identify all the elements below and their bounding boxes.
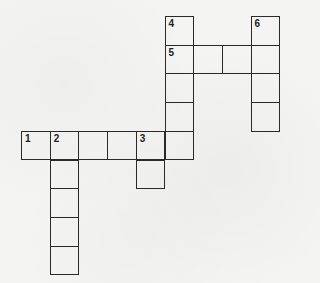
clue-number: 3 [140,133,146,144]
crossword-cell[interactable] [50,217,80,247]
crossword-cell[interactable] [222,45,252,75]
crossword-cell[interactable] [50,246,80,276]
crossword-cell[interactable] [136,160,166,190]
crossword-cell[interactable]: 5 [165,45,195,75]
clue-number: 5 [169,47,175,58]
crossword-cell[interactable] [107,131,137,161]
crossword-cell[interactable] [165,73,195,103]
crossword-cell[interactable] [193,45,223,75]
clue-number: 6 [255,18,261,29]
clue-number: 2 [54,133,60,144]
crossword-cell[interactable]: 1 [21,131,51,161]
crossword-cell[interactable] [251,102,281,132]
crossword-cell[interactable]: 6 [251,16,281,46]
crossword-cell[interactable] [50,160,80,190]
crossword-cell[interactable] [251,45,281,75]
clue-number: 4 [169,18,175,29]
crossword-cell[interactable] [251,73,281,103]
crossword-cell[interactable] [78,131,108,161]
crossword-cell[interactable]: 2 [50,131,80,161]
crossword-cell[interactable] [165,131,195,161]
crossword-grid: 465123 [0,0,295,283]
crossword-cell[interactable]: 3 [136,131,166,161]
crossword-cell[interactable] [50,188,80,218]
clue-number: 1 [25,133,31,144]
crossword-cell[interactable]: 4 [165,16,195,46]
crossword-cell[interactable] [165,102,195,132]
